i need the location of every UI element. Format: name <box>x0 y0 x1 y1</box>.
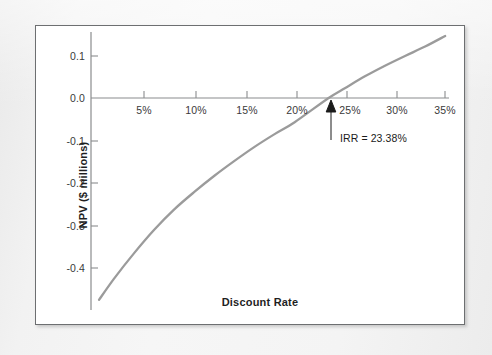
x-tick-label-30pct: 30% <box>386 104 407 116</box>
x-tick-label-25pct: 25% <box>339 104 360 116</box>
x-axis-title: Discount Rate <box>0 296 492 308</box>
y-tick-label-5: -0.4 <box>52 262 85 274</box>
y-tick-label-0: 0.1 <box>52 50 85 62</box>
x-tick-label-15pct: 15% <box>236 104 257 116</box>
irr-arrow-icon <box>326 100 336 140</box>
y-tick-label-1: 0.0 <box>52 92 85 104</box>
x-tick-marks <box>144 91 445 98</box>
y-axis-title: NPV ($ millions) <box>77 142 89 229</box>
npv-profile-curve <box>99 36 445 300</box>
irr-annotation-label: IRR = 23.38% <box>340 132 407 144</box>
x-tick-label-35pct: 35% <box>434 104 455 116</box>
x-tick-label-10pct: 10% <box>185 104 206 116</box>
y-tick-marks <box>91 56 98 268</box>
x-tick-label-5pct: 5% <box>136 104 151 116</box>
x-tick-label-20pct: 20% <box>286 104 307 116</box>
